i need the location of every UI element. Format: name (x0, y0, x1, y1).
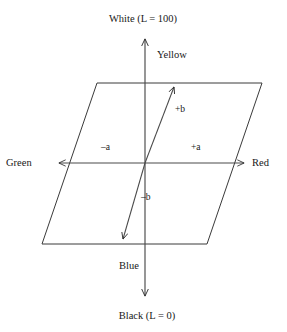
label-black-lightness-0: Black (L = 0) (119, 311, 176, 322)
cielab-diagram: White (L = 100) Black (L = 0) Yellow Blu… (0, 0, 287, 332)
label-yellow-axis: Yellow (157, 50, 187, 61)
label-white-lightness-100: White (L = 100) (109, 14, 177, 25)
label-minus-a: –a (101, 143, 110, 153)
label-minus-b: –b (141, 193, 151, 203)
label-plus-b: +b (175, 105, 185, 115)
label-plus-a: +a (191, 143, 201, 153)
label-blue-axis: Blue (119, 261, 139, 272)
cielab-diagram-canvas (0, 0, 287, 332)
b-axis-positive (145, 87, 174, 163)
label-red-axis: Red (252, 158, 269, 169)
label-green-axis: Green (6, 158, 32, 169)
